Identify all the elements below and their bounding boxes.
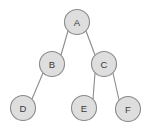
tree-node-b[interactable]: B [40,52,65,77]
edge-b-d [32,73,43,99]
edge-a-b [61,31,68,55]
node-label-c: C [101,59,108,70]
tree-node-d[interactable]: D [11,96,36,121]
edge-c-f [113,73,119,100]
node-label-f: F [125,104,131,115]
binary-tree-diagram: A B C D E F [0,0,149,131]
tree-node-c[interactable]: C [92,52,117,77]
tree-node-f[interactable]: F [116,97,141,122]
tree-node-a[interactable]: A [65,10,90,35]
node-label-d: D [20,103,27,114]
node-label-b: B [49,59,55,70]
tree-canvas: A B C D E F [0,0,149,131]
edge-c-e [93,73,95,99]
node-label-a: A [74,17,81,28]
node-label-e: E [81,103,87,114]
node-group: A B C D E F [11,10,141,122]
tree-node-e[interactable]: E [72,96,97,121]
edge-a-c [86,31,95,55]
